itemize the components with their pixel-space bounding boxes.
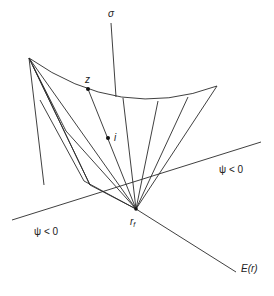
apex-label: rf	[130, 216, 135, 228]
energy-axis	[136, 209, 236, 272]
point-i-label: i	[114, 132, 116, 143]
region-right-label: ψ < 0	[219, 164, 243, 175]
point-i-dot	[106, 136, 110, 140]
sigma-axis	[111, 23, 116, 97]
energy-axis-label: E(r)	[241, 263, 258, 274]
sigma-label: σ	[108, 8, 114, 19]
cone-diagram	[0, 0, 274, 296]
apex-dot	[134, 207, 138, 211]
cone-rim-curve	[29, 58, 217, 99]
region-left-label: ψ < 0	[34, 226, 58, 237]
cone-generators	[29, 58, 217, 209]
apex-label-sub: f	[133, 221, 135, 228]
point-z-dot	[86, 87, 90, 91]
diagram-canvas: σ z i rf E(r) ψ < 0 ψ < 0	[0, 0, 274, 296]
point-z-label: z	[85, 74, 90, 85]
